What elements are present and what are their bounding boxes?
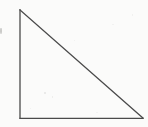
triangle-figure [0,0,148,127]
triangle-hypotenuse [20,10,143,118]
triangle-shape [20,10,143,118]
figure-container [0,0,148,127]
